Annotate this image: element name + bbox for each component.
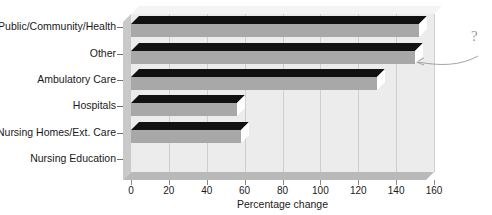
x-axis-tick-label: 40 [189, 185, 225, 196]
bar-front-face [131, 130, 242, 143]
x-axis-tick-label: 20 [151, 185, 187, 196]
gridline [358, 14, 359, 172]
x-axis-title: Percentage change [131, 198, 434, 210]
category-axis-tick [117, 106, 123, 107]
plot-floor-face [123, 172, 434, 180]
bar-front-face [131, 103, 238, 116]
bar-front-face [131, 24, 420, 37]
x-axis-tick-label: 140 [378, 185, 414, 196]
bar-front-face [131, 51, 416, 64]
gridline [207, 14, 208, 172]
x-axis-tick-label: 0 [113, 185, 149, 196]
category-label: Nursing Education [30, 153, 116, 164]
category-axis-tick [117, 54, 123, 55]
x-axis-tick-label: 80 [265, 185, 301, 196]
bar-top-face [131, 95, 245, 103]
gridline [283, 14, 284, 172]
category-label: Ambulatory Care [37, 74, 116, 85]
category-axis: Public/Community/HealthOtherAmbulatory C… [0, 0, 124, 215]
category-label: Hospitals [73, 100, 116, 111]
x-axis-tick-label: 120 [340, 185, 376, 196]
plot-area [131, 14, 435, 172]
bar [131, 69, 385, 82]
question-mark-annotation: ? [471, 28, 478, 45]
bar [131, 122, 249, 135]
x-axis-tick-label: 160 [416, 185, 452, 196]
category-axis-tick [117, 27, 123, 28]
bar [131, 43, 423, 56]
x-axis-tick-label: 100 [302, 185, 338, 196]
gridline [320, 14, 321, 172]
category-label: Nursing Homes/Ext. Care [0, 127, 116, 138]
bar-top-face [131, 43, 423, 51]
category-axis-tick [117, 80, 123, 81]
gridline [169, 14, 170, 172]
bar-chart: Public/Community/HealthOtherAmbulatory C… [0, 0, 492, 215]
gridline [396, 14, 397, 172]
bar-top-face [131, 16, 427, 24]
gridline [245, 14, 246, 172]
category-label: Other [90, 48, 116, 59]
bar [131, 16, 427, 29]
x-axis-tick-label: 60 [227, 185, 263, 196]
category-axis-tick [117, 159, 123, 160]
bar-top-face [131, 69, 385, 77]
category-axis-tick [117, 133, 123, 134]
bar [131, 95, 245, 108]
plot-left-face [123, 14, 131, 180]
plot-top-face [131, 6, 442, 14]
bar-front-face [131, 77, 378, 90]
gridline [434, 14, 435, 172]
bar-top-face [131, 122, 249, 130]
category-label: Public/Community/Health [0, 21, 116, 32]
